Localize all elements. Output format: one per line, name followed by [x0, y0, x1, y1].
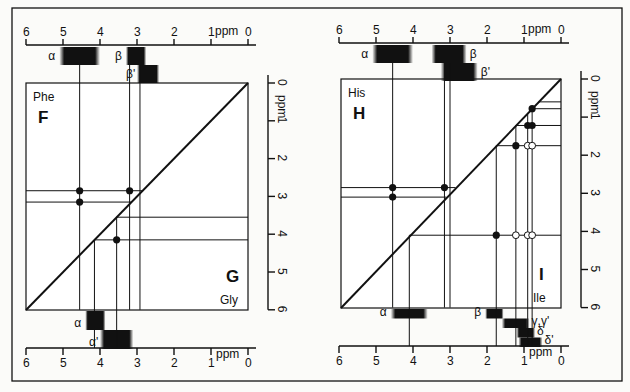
top-axis-unit: ppm — [215, 24, 238, 38]
upper-peak-label: β — [115, 49, 122, 63]
cross-peak-open-dot — [512, 232, 519, 239]
figure-canvas: 6543210ppm6543210ppm0123456ppmPheFGlyGαβ… — [0, 0, 630, 392]
upper-peak-band — [59, 47, 100, 65]
cross-peak-dot — [529, 122, 536, 129]
right-axis-tick-label: 5 — [588, 266, 602, 273]
bottom-axis-tick-label: 4 — [97, 356, 104, 370]
right-axis-tick-label: 2 — [275, 155, 289, 162]
top-axis-tick-label: 4 — [97, 25, 104, 39]
bottom-axis-tick-label: 3 — [134, 356, 141, 370]
bottom-axis-unit: ppm — [529, 345, 552, 359]
right-axis-tick-label: 3 — [588, 189, 602, 196]
upper-residue-name: His — [348, 86, 365, 100]
lower-peak-label: α' — [89, 335, 98, 349]
top-axis-tick-label: 1 — [521, 23, 528, 37]
cross-peak-dot — [512, 142, 519, 149]
bottom-axis-tick-label: 2 — [171, 356, 178, 370]
bottom-axis-tick-label: 1 — [208, 356, 215, 370]
lower-residue-code: G — [226, 267, 239, 286]
bottom-axis-unit: ppm — [216, 347, 239, 361]
top-axis-tick-label: 0 — [558, 23, 565, 37]
lower-peak-label: δ' — [545, 333, 554, 347]
top-axis-tick-label: 0 — [245, 25, 252, 39]
panel-his-ile: 6543210ppm6543210ppm0123456ppmHisHIleIαβ… — [336, 22, 602, 368]
lower-peak-band — [85, 311, 105, 330]
cross-peak-dot — [389, 194, 396, 201]
bottom-axis-tick-label: 3 — [447, 354, 454, 368]
cross-peak-dot — [529, 105, 536, 112]
top-axis-tick-label: 6 — [336, 23, 343, 37]
right-axis-unit: ppm — [275, 95, 289, 118]
upper-peak-band — [372, 45, 413, 63]
bottom-axis-tick-label: 5 — [373, 354, 380, 368]
cross-peak-dot — [493, 232, 500, 239]
cross-peak-dot — [441, 184, 448, 191]
bottom-axis-tick-label: 6 — [336, 354, 343, 368]
top-axis-tick-label: 1 — [208, 25, 215, 39]
panel-phe-gly: 6543210ppm6543210ppm0123456ppmPheFGlyGαβ… — [23, 24, 289, 370]
upper-peak-band — [432, 45, 467, 63]
lower-peak-band — [518, 338, 542, 348]
cross-peak-dot — [113, 236, 120, 243]
right-axis-tick-label: 2 — [588, 151, 602, 158]
right-axis-tick-label: 5 — [275, 268, 289, 275]
right-axis-tick-label: 6 — [588, 304, 602, 311]
top-axis-tick-label: 2 — [171, 25, 178, 39]
upper-peak-band — [126, 47, 146, 65]
lower-peak-label: α — [74, 316, 81, 330]
top-axis-tick-label: 6 — [23, 25, 30, 39]
lower-peak-band — [485, 309, 504, 319]
right-axis-tick-label: 3 — [275, 192, 289, 199]
upper-peak-label: α — [361, 47, 368, 61]
top-axis-tick-label: 5 — [373, 23, 380, 37]
right-axis-tick-label: 0 — [588, 75, 602, 82]
bottom-axis-tick-label: 0 — [558, 354, 565, 368]
upper-peak-label: β' — [126, 67, 135, 81]
top-axis-tick-label: 3 — [447, 23, 454, 37]
cross-peak-dot — [76, 198, 83, 205]
lower-residue-name: Ile — [533, 291, 546, 305]
cross-peak-dot — [126, 187, 133, 194]
upper-peak-label: β — [470, 47, 477, 61]
top-axis-tick-label: 4 — [410, 23, 417, 37]
bottom-axis-tick-label: 2 — [484, 354, 491, 368]
nmr-cosy-diagram: 6543210ppm6543210ppm0123456ppmPheFGlyGαβ… — [0, 0, 630, 392]
upper-residue-name: Phe — [33, 90, 55, 104]
upper-peak-band — [441, 63, 478, 81]
upper-residue-code: H — [353, 104, 365, 123]
lower-residue-name: Gly — [220, 293, 238, 307]
bottom-axis-tick-label: 0 — [245, 356, 252, 370]
cross-peak-open-dot — [529, 142, 536, 149]
right-axis-tick-label: 4 — [588, 227, 602, 234]
lower-residue-code: I — [539, 265, 544, 284]
right-axis-tick-label: 0 — [275, 79, 289, 86]
bottom-axis-tick-label: 6 — [23, 356, 30, 370]
upper-residue-code: F — [38, 108, 48, 127]
lower-peak-label: α — [380, 305, 387, 319]
lower-peak-label: β — [474, 305, 481, 319]
upper-peak-label: β' — [481, 65, 490, 79]
lower-peak-label: δ — [537, 324, 544, 338]
right-axis-tick-label: 6 — [275, 306, 289, 313]
cross-peak-dot — [389, 184, 396, 191]
right-axis-tick-label: 4 — [275, 230, 289, 237]
top-axis-unit: ppm — [528, 22, 551, 36]
cross-peak-open-dot — [529, 232, 536, 239]
bottom-axis-tick-label: 5 — [60, 356, 67, 370]
cross-peak-dot — [76, 187, 83, 194]
right-axis-unit: ppm — [588, 91, 602, 114]
top-axis-tick-label: 5 — [60, 25, 67, 39]
top-axis-tick-label: 3 — [134, 25, 141, 39]
bottom-axis-tick-label: 1 — [521, 354, 528, 368]
top-axis-tick-label: 2 — [484, 23, 491, 37]
bottom-axis-tick-label: 4 — [410, 354, 417, 368]
upper-peak-label: α — [48, 49, 55, 63]
